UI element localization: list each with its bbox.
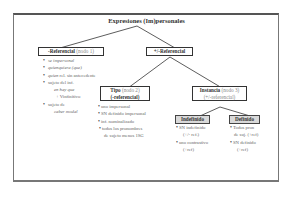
list-tipo: uno impersonal SN definido impersonal in… bbox=[98, 103, 146, 139]
list-item-continuation: (+/- ref.) bbox=[176, 131, 208, 138]
list-item: todos los pronombres bbox=[99, 125, 146, 132]
list-neg-referencial: se impersonal quienquiera (que) quien re… bbox=[43, 57, 96, 115]
node-note: (nodo 2) bbox=[122, 87, 140, 93]
list-item: SN definido bbox=[230, 139, 258, 146]
list-item-continuation: de suj. (+ref) bbox=[230, 131, 258, 138]
list-item-continuation: (+ref) bbox=[176, 146, 208, 153]
list-item: inf. nominalizado bbox=[98, 118, 146, 125]
list-item: quienquiera (que) bbox=[43, 64, 96, 71]
node-label: Definido bbox=[235, 116, 254, 122]
node-definido: Definido bbox=[229, 115, 260, 124]
list-item: sujeto de bbox=[43, 101, 96, 108]
node-pm-referencial: +/-Referencial bbox=[146, 47, 193, 56]
diagram-title: Expresiones (Im)personales bbox=[0, 17, 293, 24]
node-note: (nodo 3) bbox=[222, 87, 240, 93]
list-indefinido: SN indefinido (+/- ref.) uno contrastivo… bbox=[176, 124, 208, 153]
node-label: Tipo bbox=[110, 87, 120, 93]
list-item-continuation: en hay que bbox=[43, 86, 96, 93]
list-item-continuation: caber modal bbox=[43, 108, 96, 115]
node-sub: (-referencial) bbox=[111, 94, 140, 100]
node-note: (nodo 1) bbox=[76, 48, 94, 54]
list-item: uno contrastivo bbox=[176, 139, 208, 146]
list-item-continuation: de sujeto menos 1SG bbox=[98, 132, 146, 139]
list-item-continuation: + Vinfinitivo bbox=[43, 93, 96, 100]
node-sub: (+/-referencial) bbox=[204, 94, 236, 100]
node-label: +/-Referencial bbox=[154, 48, 185, 54]
node-label: -Referencial bbox=[48, 48, 75, 54]
list-item: Todos pron bbox=[230, 124, 258, 131]
list-definido: Todos pron de suj. (+ref) SN definido (+… bbox=[230, 124, 258, 153]
list-item: se impersonal bbox=[43, 57, 96, 64]
list-item: SN definido impersonal bbox=[98, 110, 146, 117]
list-item: SN indefinido bbox=[176, 124, 208, 131]
node-label: Indefinido bbox=[181, 116, 204, 122]
list-item-continuation: (+ref) bbox=[230, 146, 258, 153]
node-indefinido: Indefinido bbox=[175, 115, 210, 124]
list-item: quien rel. sin antecedente bbox=[43, 72, 96, 79]
list-item: sujeto del inf. bbox=[43, 79, 96, 86]
node-neg-referencial: -Referencial (nodo 1) bbox=[38, 47, 104, 56]
node-instancia: Instancia (nodo 3) (+/-referencial) bbox=[192, 86, 247, 101]
node-label: Instancia bbox=[200, 87, 220, 93]
node-tipo: Tipo (nodo 2) (-referencial) bbox=[100, 86, 150, 101]
list-item: uno impersonal bbox=[98, 103, 146, 110]
